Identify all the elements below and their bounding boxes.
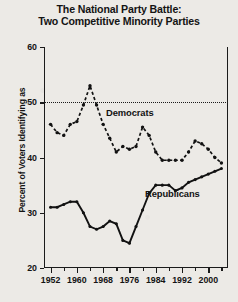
data-point: [82, 211, 85, 214]
data-point: [200, 175, 203, 178]
data-point: [134, 145, 137, 148]
x-tick-label-1952: 1952: [41, 275, 61, 285]
x-tick-minor-1988: [169, 268, 170, 271]
data-point: [167, 159, 170, 162]
data-point: [95, 103, 98, 106]
x-tick-1984: [156, 268, 157, 273]
chart-figure: The National Party Battle: Two Competiti…: [0, 0, 238, 302]
data-point: [121, 145, 124, 148]
y-axis-label: Percent of Voters Identifying as: [17, 50, 27, 250]
chart-title: The National Party Battle: Two Competiti…: [0, 3, 238, 28]
data-point: [213, 170, 216, 173]
x-tick-1976: [129, 268, 130, 273]
data-point: [108, 219, 111, 222]
data-point: [88, 84, 91, 87]
x-tick-label-1960: 1960: [67, 275, 87, 285]
data-point: [207, 148, 210, 151]
data-point: [161, 184, 164, 187]
data-point: [167, 184, 170, 187]
data-point: [213, 156, 216, 159]
y-tick-label-60: 60: [27, 42, 37, 52]
data-point: [194, 178, 197, 181]
y-tick-label-20: 20: [27, 263, 37, 273]
democrats-series-label: Democrats: [106, 107, 154, 118]
y-tick-label-30: 30: [27, 208, 37, 218]
democrats-markers: [49, 84, 223, 165]
x-tick-label-2000: 2000: [198, 275, 218, 285]
x-tick-minor-1980: [143, 268, 144, 271]
data-point: [147, 134, 150, 137]
x-tick-label-1984: 1984: [146, 275, 166, 285]
x-tick-1960: [77, 268, 78, 273]
x-tick-label-1992: 1992: [172, 275, 192, 285]
data-point: [56, 206, 59, 209]
data-point: [82, 103, 85, 106]
data-point: [128, 148, 131, 151]
data-point: [101, 123, 104, 126]
chart-title-line-1: The National Party Battle:: [56, 3, 181, 15]
data-point: [220, 161, 223, 164]
data-point: [69, 200, 72, 203]
data-point: [128, 242, 131, 245]
republicans-series-label: Republicans: [145, 188, 200, 199]
x-tick-label-1976: 1976: [120, 275, 140, 285]
data-point: [95, 228, 98, 231]
x-tick-1952: [51, 268, 52, 273]
x-tick-minor-1956: [64, 268, 65, 271]
plot-area: 2030405060 1952196019681976198419922000 …: [44, 47, 228, 268]
x-tick-minor-2004: [221, 268, 222, 271]
data-point: [75, 120, 78, 123]
data-point: [69, 123, 72, 126]
data-point: [121, 239, 124, 242]
data-point: [141, 125, 144, 128]
chart-title-line-2: Two Competitive Minority Parties: [0, 15, 238, 27]
y-tick-20: [40, 268, 45, 269]
democrats-line: [51, 86, 222, 163]
data-point: [134, 225, 137, 228]
data-point: [174, 159, 177, 162]
data-point: [180, 159, 183, 162]
x-tick-label-1968: 1968: [93, 275, 113, 285]
x-tick-minor-1996: [195, 268, 196, 271]
data-point: [207, 173, 210, 176]
x-tick-1968: [103, 268, 104, 273]
data-point: [49, 206, 52, 209]
y-tick-label-50: 50: [27, 97, 37, 107]
data-point: [220, 167, 223, 170]
data-point: [115, 222, 118, 225]
data-point: [193, 139, 196, 142]
x-tick-minor-1972: [116, 268, 117, 271]
data-point: [154, 150, 157, 153]
x-tick-2000: [208, 268, 209, 273]
data-point: [62, 203, 65, 206]
data-point: [187, 150, 190, 153]
data-point: [62, 134, 65, 137]
series-layer: [44, 47, 228, 268]
data-point: [161, 159, 164, 162]
data-point: [108, 136, 111, 139]
y-tick-label-40: 40: [27, 153, 37, 163]
data-point: [102, 225, 105, 228]
data-point: [187, 181, 190, 184]
data-point: [49, 123, 52, 126]
data-point: [75, 200, 78, 203]
data-point: [88, 225, 91, 228]
data-point: [154, 184, 157, 187]
x-tick-1992: [182, 268, 183, 273]
data-point: [200, 142, 203, 145]
data-point: [115, 150, 118, 153]
x-tick-minor-1964: [90, 268, 91, 271]
data-point: [141, 208, 144, 211]
data-point: [55, 131, 58, 134]
